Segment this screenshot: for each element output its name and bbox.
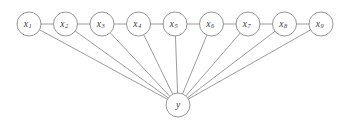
node-x5[interactable]: x5	[163, 12, 187, 36]
graph-canvas: x1x2x3x4x5x6x7x8x9y	[0, 0, 357, 120]
node-group: x1x2x3x4x5x6x7x8x9y	[17, 12, 333, 117]
star-edge-group	[40, 30, 311, 100]
node-label-y: y	[175, 100, 181, 110]
edge-x1-y	[40, 30, 168, 100]
node-x3[interactable]: x3	[90, 12, 114, 36]
edge-x9-y	[188, 30, 310, 99]
edge-x3-y	[110, 33, 170, 96]
node-x7[interactable]: x7	[236, 12, 260, 36]
node-x1[interactable]: x1	[17, 12, 41, 36]
edge-x8-y	[188, 31, 275, 97]
node-x4[interactable]: x4	[127, 12, 151, 36]
node-label-sub-x1: 1	[28, 22, 31, 29]
edge-x4-y	[144, 35, 173, 94]
node-label-sub-x3: 3	[100, 22, 105, 29]
edge-x2-y	[75, 31, 168, 98]
node-x9[interactable]: x9	[309, 12, 333, 36]
edge-x5-y	[175, 36, 177, 93]
node-x8[interactable]: x8	[273, 12, 297, 36]
edge-x7-y	[186, 33, 240, 96]
node-x2[interactable]: x2	[54, 12, 78, 36]
node-y[interactable]: y	[166, 93, 190, 117]
node-x6[interactable]: x6	[200, 12, 224, 36]
graph-diagram: x1x2x3x4x5x6x7x8x9y	[0, 0, 357, 120]
